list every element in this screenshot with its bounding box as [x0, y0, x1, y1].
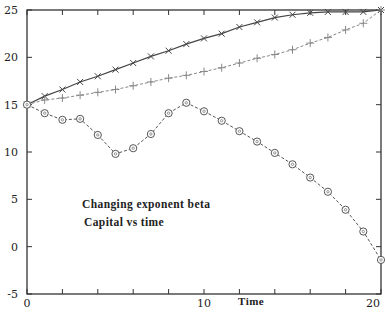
circle-marker-icon — [324, 188, 331, 195]
series-line — [27, 10, 381, 105]
series-circle-marker — [23, 99, 384, 263]
circle-marker-icon — [236, 128, 243, 135]
plot-border — [27, 10, 381, 294]
circle-marker-icon — [77, 115, 84, 122]
capital-vs-time-chart: 01020-50510152025 Changing exponent beta… — [0, 0, 385, 315]
x-tick-label: 10 — [197, 297, 211, 310]
plus-marker-icon — [253, 54, 261, 62]
axis-ticks — [27, 10, 381, 294]
x-tick-label: 0 — [24, 297, 31, 310]
circle-marker-icon — [200, 108, 207, 115]
plus-marker-icon — [359, 19, 367, 27]
y-tick-label: -5 — [7, 288, 18, 301]
circle-marker-icon — [130, 145, 137, 152]
series-line — [27, 103, 381, 260]
circle-marker-icon — [342, 206, 349, 213]
plus-marker-icon — [129, 82, 137, 90]
plus-marker-icon — [182, 71, 190, 79]
plus-marker-icon — [94, 88, 102, 96]
x-marker-icon — [183, 41, 189, 47]
circle-marker-icon — [360, 228, 367, 235]
circle-marker-icon — [41, 110, 48, 117]
x-marker-icon — [77, 79, 83, 85]
circle-marker-icon — [271, 149, 278, 156]
axis-tick-labels: 01020-50510152025 — [4, 4, 380, 310]
annotation-line-1: Changing exponent beta — [82, 198, 210, 211]
y-tick-label: 20 — [4, 51, 18, 64]
x-axis-title: Time — [238, 295, 264, 307]
circle-marker-icon — [165, 110, 172, 117]
x-marker-icon — [130, 60, 136, 66]
x-tick-label: 20 — [366, 297, 380, 310]
series-layer — [23, 6, 385, 264]
plus-marker-icon — [147, 78, 155, 86]
circle-marker-icon — [112, 150, 119, 157]
x-marker-icon — [148, 53, 154, 59]
circle-marker-icon — [183, 99, 190, 106]
plus-marker-icon — [342, 26, 350, 34]
circle-marker-icon — [59, 116, 66, 123]
plus-marker-icon — [324, 33, 332, 41]
x-marker-icon — [166, 48, 172, 54]
circle-marker-icon — [289, 161, 296, 168]
plus-marker-icon — [289, 46, 297, 54]
plus-marker-icon — [165, 74, 173, 82]
plus-marker-icon — [58, 94, 66, 102]
annotation-line-2: Capital vs time — [84, 216, 164, 229]
plus-marker-icon — [218, 64, 226, 72]
y-tick-label: 10 — [4, 146, 18, 159]
plus-marker-icon — [271, 50, 279, 58]
series-line — [27, 10, 381, 105]
series-x-marker — [24, 7, 384, 108]
plot-frame — [27, 10, 381, 294]
plus-marker-icon — [306, 39, 314, 47]
x-marker-icon — [113, 67, 119, 73]
plus-marker-icon — [112, 86, 120, 94]
circle-marker-icon — [218, 117, 225, 124]
circle-marker-icon — [23, 101, 30, 108]
plus-marker-icon — [76, 91, 84, 99]
y-tick-label: 5 — [11, 193, 18, 206]
x-marker-icon — [59, 87, 65, 93]
y-tick-label: 0 — [11, 241, 18, 254]
y-tick-label: 25 — [4, 4, 18, 17]
circle-marker-icon — [307, 174, 314, 181]
plus-marker-icon — [200, 68, 208, 76]
x-marker-icon — [95, 73, 101, 79]
plus-marker-icon — [235, 59, 243, 67]
circle-marker-icon — [254, 138, 261, 145]
circle-marker-icon — [377, 256, 384, 263]
circle-marker-icon — [147, 130, 154, 137]
circle-marker-icon — [94, 131, 101, 138]
y-tick-label: 15 — [4, 99, 18, 112]
series-plus-marker — [23, 6, 385, 109]
